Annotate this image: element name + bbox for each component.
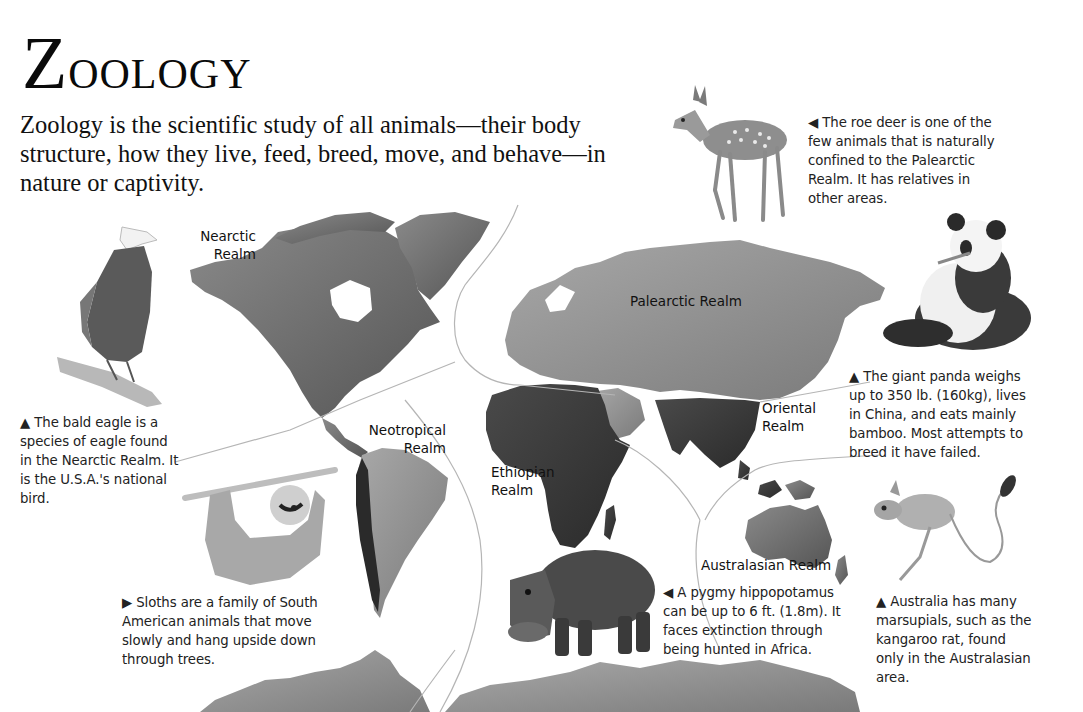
realm-label-oriental: Oriental Realm [762, 399, 816, 435]
pointer-left-icon: ◀ [663, 585, 673, 600]
pointer-up-icon: ▲ [876, 594, 886, 609]
bald-eagle-illustration [52, 222, 167, 412]
caption-pygmy-hippo: ◀ A pygmy hippopotamus can be up to 6 ft… [663, 583, 845, 659]
pygmy-hippo-illustration [500, 540, 660, 665]
continent-south-america [356, 448, 448, 618]
realm-label-nearctic: Nearctic Realm [198, 227, 256, 263]
roe-deer-illustration [665, 80, 805, 230]
caption-sloth: ▶ Sloths are a family of South American … [122, 593, 332, 669]
pointer-up-icon: ▲ [20, 415, 30, 430]
sloth-illustration [180, 460, 340, 590]
realm-label-ethiopian: Ethiopian Realm [491, 463, 555, 499]
realm-label-australasian: Australasian Realm [701, 556, 831, 574]
caption-roe-deer: ◀ The roe deer is one of the few animals… [808, 113, 1008, 208]
realm-label-neotropical: Neotropical Realm [368, 421, 446, 457]
caption-giant-panda: ▲ The giant panda weighs up to 350 lb. (… [849, 367, 1039, 462]
caption-bald-eagle: ▲ The bald eagle is a species of eagle f… [20, 413, 180, 508]
kangaroo-rat-illustration [870, 472, 1020, 587]
realm-label-palearctic: Palearctic Realm [630, 292, 742, 310]
pointer-left-icon: ◀ [808, 115, 818, 130]
pointer-right-icon: ▶ [122, 595, 132, 610]
giant-panda-illustration [878, 208, 1038, 358]
pointer-up-icon: ▲ [849, 369, 859, 384]
caption-kangaroo-rat: ▲ Australia has many marsupials, such as… [876, 592, 1036, 687]
